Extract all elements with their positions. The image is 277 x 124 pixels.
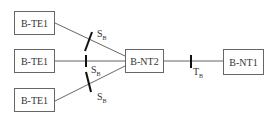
- node-b-te1-mid: B-TE1: [14, 49, 55, 73]
- node-label: B-TE1: [21, 18, 48, 29]
- ref-point-tb: TB: [193, 66, 203, 79]
- node-label: B-NT2: [130, 56, 158, 67]
- node-label: B-TE1: [21, 56, 48, 67]
- node-label: B-NT1: [229, 57, 257, 68]
- node-b-nt1: B-NT1: [223, 49, 264, 75]
- edge-bot: [55, 66, 125, 101]
- ref-point-sb-mid: SB: [91, 64, 101, 77]
- diagram-canvas: B-TE1 B-TE1 B-TE1 B-NT2 B-NT1 SB SB SB T…: [0, 0, 277, 124]
- sb-tick-top: [85, 32, 92, 51]
- ref-point-sb-top: SB: [97, 28, 107, 41]
- ref-point-sb-bot: SB: [97, 91, 107, 104]
- node-b-te1-bot: B-TE1: [14, 88, 55, 112]
- node-b-nt2: B-NT2: [125, 49, 164, 73]
- node-b-te1-top: B-TE1: [14, 11, 55, 35]
- node-label: B-TE1: [21, 95, 48, 106]
